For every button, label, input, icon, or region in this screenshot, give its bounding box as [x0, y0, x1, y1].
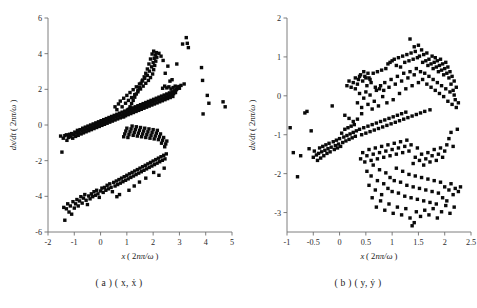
data-point: [201, 79, 204, 82]
data-point: [339, 145, 342, 148]
data-point: [367, 184, 370, 187]
data-point: [419, 111, 422, 114]
data-point: [427, 213, 430, 216]
data-point: [323, 149, 326, 152]
data-point: [424, 157, 427, 160]
data-point: [414, 50, 417, 53]
data-point: [436, 81, 439, 84]
data-point: [406, 116, 409, 119]
data-point: [445, 143, 448, 146]
x-tick-label: 1: [390, 238, 394, 247]
data-point: [449, 182, 452, 185]
data-point: [115, 108, 118, 111]
data-point: [170, 78, 173, 81]
x-tick-label: 4: [204, 238, 208, 247]
data-point: [366, 103, 369, 106]
data-point: [440, 210, 443, 213]
data-point: [381, 95, 384, 98]
data-point: [369, 159, 372, 162]
data-point: [394, 121, 397, 124]
data-point: [367, 148, 370, 151]
data-point: [425, 51, 428, 54]
data-point: [441, 196, 444, 199]
data-point: [151, 128, 154, 131]
data-point: [398, 119, 401, 122]
x-tick-label: 0: [99, 238, 103, 247]
data-point: [374, 188, 377, 191]
data-point: [365, 154, 368, 157]
data-point: [451, 89, 454, 92]
data-point: [143, 127, 146, 130]
data-point: [421, 78, 424, 81]
data-point: [452, 93, 455, 96]
data-point: [443, 149, 446, 152]
data-point: [445, 199, 448, 202]
data-point: [430, 190, 433, 193]
data-point: [147, 127, 150, 130]
data-point: [143, 75, 146, 78]
data-point: [358, 75, 361, 78]
data-point: [369, 81, 372, 84]
data-point: [161, 59, 164, 62]
data-point: [428, 160, 431, 163]
data-point: [401, 151, 404, 154]
data-point: [400, 79, 403, 82]
data-point: [450, 75, 453, 78]
data-point: [435, 159, 438, 162]
x-tick-label: 2: [443, 238, 447, 247]
data-point: [175, 62, 178, 65]
data-point: [154, 59, 157, 62]
data-point: [413, 73, 416, 76]
data-point: [360, 133, 363, 136]
data-point: [420, 48, 423, 51]
data-point: [378, 168, 381, 171]
data-point: [433, 61, 436, 64]
panel-b-caption: ( b ) ( y, ẏ ): [239, 278, 477, 288]
figure-container: -2-1012345-6-4-20246x ( 2nπ/ω )dx/dt ( 2…: [0, 0, 477, 308]
data-point: [111, 190, 114, 193]
data-point: [316, 159, 319, 162]
data-point: [322, 154, 325, 157]
panel-a: -2-1012345-6-4-20246x ( 2nπ/ω )dx/dt ( 2…: [0, 0, 238, 308]
data-point: [457, 101, 460, 104]
data-point: [345, 134, 348, 137]
data-point: [201, 112, 204, 115]
data-point: [185, 36, 188, 39]
data-point: [332, 140, 335, 143]
data-point: [122, 115, 125, 118]
data-point: [83, 193, 86, 196]
data-point: [397, 146, 400, 149]
data-point: [133, 95, 136, 98]
data-point: [440, 84, 443, 87]
data-point: [404, 207, 407, 210]
data-point: [336, 146, 339, 149]
data-point: [419, 70, 422, 73]
data-point: [442, 73, 445, 76]
data-point: [427, 75, 430, 78]
data-point: [329, 145, 332, 148]
data-point: [165, 152, 168, 155]
data-point: [424, 188, 427, 191]
data-point: [446, 100, 449, 103]
data-point: [438, 64, 441, 67]
data-point: [359, 157, 362, 160]
data-point: [356, 117, 359, 120]
data-point: [408, 37, 411, 40]
data-point: [73, 206, 76, 209]
data-point: [431, 207, 434, 210]
data-point: [413, 221, 416, 224]
data-point: [162, 136, 165, 139]
data-point: [401, 54, 404, 57]
panel-b: -1-0.500.511.522.5-3-2-1012x ( 2nπ/ω )dx…: [239, 0, 477, 308]
data-point: [122, 97, 125, 100]
data-point: [436, 216, 439, 219]
data-point: [379, 84, 382, 87]
data-point: [179, 84, 182, 87]
data-point: [434, 56, 437, 59]
data-point: [377, 104, 380, 107]
data-point: [325, 152, 328, 155]
data-point: [361, 151, 364, 154]
data-point: [382, 89, 385, 92]
data-point: [118, 193, 121, 196]
data-point: [387, 86, 390, 89]
